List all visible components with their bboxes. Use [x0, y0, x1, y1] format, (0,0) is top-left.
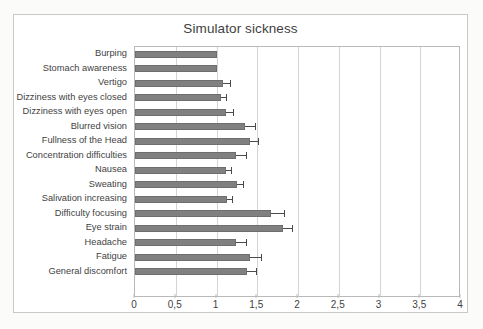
category-label-1: Stomach awareness [14, 61, 132, 76]
error-cap [231, 167, 232, 174]
category-label-14: Fatigue [14, 249, 132, 264]
error-cap [261, 254, 262, 261]
bar-3[interactable] [135, 94, 221, 101]
error-cap [256, 268, 257, 275]
x-axis: 00,511,522,533,54 [134, 298, 460, 316]
category-axis-labels: BurpingStomach awarenessVertigoDizziness… [14, 46, 132, 297]
category-label-5: Blurred vision [14, 119, 132, 134]
x-tickmark [378, 294, 379, 298]
category-label-10: Salivation increasing [14, 191, 132, 206]
x-tickmark [419, 294, 420, 298]
bar-row [135, 62, 459, 77]
bar-14[interactable] [135, 254, 250, 261]
x-tickmark [134, 294, 135, 298]
x-tickmark [174, 294, 175, 298]
bar-4[interactable] [135, 109, 226, 116]
bar-row [135, 265, 459, 280]
error-cap [226, 94, 227, 101]
bar-row [135, 163, 459, 178]
x-tick-label-1: 0,5 [168, 299, 182, 310]
error-cap [258, 138, 259, 145]
bar-row [135, 221, 459, 236]
bar-row [135, 250, 459, 265]
bar-row [135, 105, 459, 120]
bar-0[interactable] [135, 51, 217, 58]
error-bar-15 [247, 268, 256, 275]
error-whisker [245, 126, 255, 127]
x-tick-label-5: 2,5 [331, 299, 345, 310]
category-label-7: Concentration difficulties [14, 148, 132, 163]
bar-2[interactable] [135, 80, 223, 87]
error-bar-7 [236, 152, 246, 159]
error-bar-6 [250, 138, 258, 145]
bar-row [135, 192, 459, 207]
error-bar-8 [226, 167, 231, 174]
bar-10[interactable] [135, 196, 227, 203]
chart-title: Simulator sickness [14, 21, 467, 36]
category-label-3: Dizziness with eyes closed [14, 90, 132, 105]
bar-11[interactable] [135, 210, 271, 217]
bar-series [135, 47, 459, 296]
category-label-15: General discomfort [14, 264, 132, 279]
error-cap [255, 123, 256, 130]
category-label-12: Eye strain [14, 220, 132, 235]
error-bar-12 [283, 225, 293, 232]
error-bar-9 [237, 181, 244, 188]
bar-row [135, 120, 459, 135]
bar-row [135, 47, 459, 62]
bar-6[interactable] [135, 138, 250, 145]
error-bar-4 [226, 109, 233, 116]
error-cap [230, 80, 231, 87]
chart-frame: Simulator sickness BurpingStomach awaren… [13, 14, 468, 313]
x-tickmark [337, 294, 338, 298]
error-bar-5 [245, 123, 255, 130]
x-tick-label-2: 1 [213, 299, 219, 310]
bar-row [135, 134, 459, 149]
error-bar-2 [223, 80, 230, 87]
bar-12[interactable] [135, 225, 283, 232]
bar-row [135, 207, 459, 222]
bar-8[interactable] [135, 167, 226, 174]
error-cap [243, 181, 244, 188]
x-tick-label-6: 3 [376, 299, 382, 310]
bar-5[interactable] [135, 123, 245, 130]
bar-row [135, 149, 459, 164]
bar-row [135, 76, 459, 91]
category-label-2: Vertigo [14, 75, 132, 90]
x-tickmark [215, 294, 216, 298]
x-tick-label-3: 1,5 [249, 299, 263, 310]
bar-row [135, 236, 459, 251]
error-cap [292, 225, 293, 232]
bar-9[interactable] [135, 181, 237, 188]
error-whisker [236, 242, 246, 243]
bar-13[interactable] [135, 239, 236, 246]
bar-row [135, 178, 459, 193]
x-tick-label-7: 3,5 [412, 299, 426, 310]
error-whisker [250, 257, 261, 258]
error-cap [246, 239, 247, 246]
error-whisker [236, 155, 246, 156]
x-tickmark [460, 294, 461, 298]
plot-area [134, 46, 460, 297]
x-tickmark [297, 294, 298, 298]
error-cap [246, 152, 247, 159]
error-bar-14 [250, 254, 261, 261]
error-whisker [250, 141, 258, 142]
error-whisker [283, 228, 293, 229]
x-tickmark [256, 294, 257, 298]
category-label-4: Dizziness with eyes open [14, 104, 132, 119]
error-bar-13 [236, 239, 246, 246]
category-label-8: Nausea [14, 162, 132, 177]
error-cap [232, 196, 233, 203]
category-label-9: Sweating [14, 177, 132, 192]
bar-1[interactable] [135, 65, 217, 72]
bar-row [135, 91, 459, 106]
category-label-6: Fullness of the Head [14, 133, 132, 148]
category-label-11: Difficulty focusing [14, 206, 132, 221]
bar-7[interactable] [135, 152, 236, 159]
x-tick-label-0: 0 [131, 299, 137, 310]
category-label-0: Burping [14, 46, 132, 61]
error-bar-10 [227, 196, 232, 203]
x-tick-label-4: 2 [294, 299, 300, 310]
bar-15[interactable] [135, 268, 247, 275]
